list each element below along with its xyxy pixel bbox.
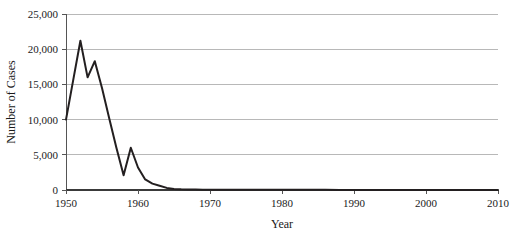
x-tick-label: 1950 [55, 197, 78, 209]
x-tick-label: 1990 [343, 197, 366, 209]
x-tick-label: 1980 [271, 197, 294, 209]
x-tick-label: 1970 [199, 197, 222, 209]
x-tick-label: 2000 [415, 197, 438, 209]
x-axis-title: Year [271, 217, 293, 231]
line-chart: 05,00010,00015,00020,00025,000 195019601… [0, 0, 516, 240]
x-tick-label: 2010 [487, 197, 510, 209]
x-tick-label: 1960 [127, 197, 150, 209]
y-tick-label: 0 [53, 184, 59, 196]
y-axis-title: Number of Cases [4, 60, 18, 144]
chart-figure: 05,00010,00015,00020,00025,000 195019601… [0, 0, 516, 240]
y-tick-label: 20,000 [28, 43, 59, 55]
y-tick-label: 25,000 [28, 8, 59, 20]
y-tick-label: 15,000 [28, 78, 59, 90]
chart-background [0, 0, 516, 240]
y-tick-label: 5,000 [33, 149, 58, 161]
y-tick-label: 10,000 [28, 114, 59, 126]
